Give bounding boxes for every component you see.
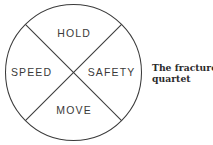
quadrant-label-hold: HOLD [0,28,147,39]
figure-caption-line-2: quartet [152,73,212,84]
quadrant-label-safety: SAFETY [85,67,137,78]
fracture-quartet-figure: HOLD SPEED SAFETY MOVE The fracture quar… [0,0,213,145]
quadrant-label-speed: SPEED [0,67,62,78]
figure-caption-line-1: The fracture [152,62,212,73]
figure-caption: The fracture quartet [152,62,212,85]
quadrant-label-move: MOVE [0,105,147,116]
